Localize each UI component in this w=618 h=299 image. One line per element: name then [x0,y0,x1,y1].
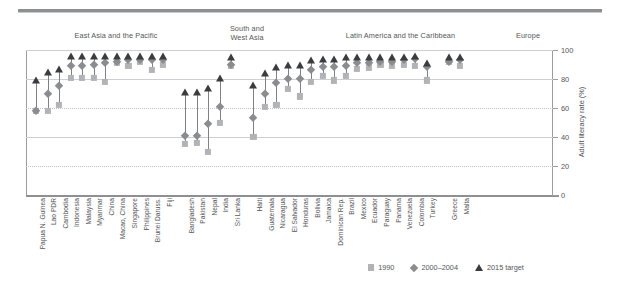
data-point-1990 [79,74,85,80]
data-point-2015-target [55,65,63,72]
category-label: Ecuador [371,198,378,223]
y-tick-label-100: 100 [561,46,573,55]
category-label: China [108,198,115,215]
data-point-2015-target [90,52,98,59]
data-point-1990 [424,77,430,83]
data-point-1990 [320,73,326,79]
data-point-2015-target [423,60,431,67]
data-point-2015-target [261,70,269,77]
category-label: India [222,198,229,213]
plot-bottom-border [26,195,559,197]
category-label: Malta [463,198,470,214]
category-label: Nicaragua [279,198,286,229]
y-tick-100 [553,50,558,51]
data-point-2015-target [148,52,156,59]
data-point-1990 [182,141,188,147]
group-label-east-asia: East Asia and the Pacific [36,32,196,41]
diamond-marker-icon [410,263,418,271]
category-label: Jamaica [325,198,332,223]
chart-legend: 1990 2000–2004 2015 target [368,263,524,272]
data-point-2015-target [376,54,384,61]
y-tick-40 [553,137,558,138]
category-label: Lao PDR [50,198,57,225]
category-label: Papua N. Guinea [39,198,46,249]
category-label: Philippines [143,198,150,230]
data-point-2015-target [365,54,373,61]
data-point-2015-target [330,55,338,62]
legend-item-1990: 1990 [368,263,394,272]
data-point-2015-target [227,54,235,61]
category-label: Panama [395,198,402,223]
category-label: Sri Lanka [234,198,241,226]
data-point-1990 [68,74,74,80]
data-point-1990 [102,79,108,85]
category-label: Venezuela [406,198,413,229]
data-point-2015-target [101,52,109,59]
literacy-rate-chart-figure: East Asia and the Pacific South and West… [0,0,618,299]
data-point-2015-target [353,54,361,61]
category-label: Haiti [256,198,263,211]
data-point-1990 [343,73,349,79]
data-point-2015-target [307,57,315,64]
legend-item-2000-2004: 2000–2004 [411,263,458,272]
data-point-2015-target [113,52,121,59]
category-label: Malaysia [85,198,92,224]
data-point-2015-target [456,54,464,61]
data-point-1990 [331,77,337,83]
data-point-2015-target [342,54,350,61]
data-point-1990 [91,74,97,80]
data-point-2015-target [411,52,419,59]
category-label: Mexico [360,198,367,219]
data-point-2015-target [124,52,132,59]
square-marker-icon [368,264,374,270]
y-tick-80 [553,79,558,80]
data-point-2015-target [44,68,52,75]
data-point-2015-target [284,61,292,68]
gridline-20 [26,166,553,167]
y-axis-line [552,50,553,196]
data-point-2015-target [67,52,75,59]
data-point-1990 [205,148,211,154]
data-point-2015-target [78,52,86,59]
y-tick-label-60: 60 [561,104,569,113]
group-label-latin-america: Latin America and the Caribbean [318,32,483,41]
data-point-2015-target [193,89,201,96]
y-tick-label-40: 40 [561,133,569,142]
category-label: Guatemala [268,198,275,231]
y-tick-60 [553,108,558,109]
header-rule [18,9,602,12]
data-point-1990 [273,102,279,108]
group-label-europe: Europe [498,32,558,41]
category-label: Dominican Rep. [337,198,344,246]
category-label: Nepal [211,198,218,215]
y-tick-20 [553,166,558,167]
data-point-2015-target [319,55,327,62]
category-label: Brunei Daruss. [154,198,161,242]
group-label-south-west-asia: South and West Asia [212,25,282,42]
data-point-2015-target [216,74,224,81]
category-label: Macao, China [119,198,126,239]
data-point-2015-target [159,52,167,59]
data-point-1990 [296,93,302,99]
data-point-2015-target [445,54,453,61]
category-label: Turkey [429,198,436,218]
gridline-60 [26,108,553,109]
category-label: El Salvador [291,198,298,232]
data-point-1990 [56,102,62,108]
data-point-1990 [217,119,223,125]
category-label: Indonesia [73,198,80,227]
y-tick-label-20: 20 [561,162,569,171]
data-point-1990 [148,67,154,73]
y-tick-label-0: 0 [561,191,565,200]
data-point-2015-target [181,89,189,96]
y-tick-0 [553,195,558,196]
data-point-2015-target [249,81,257,88]
category-label: Bolivia [314,198,321,218]
gridline-100 [26,50,553,51]
data-point-2015-target [400,54,408,61]
category-label: Greece [451,198,458,220]
connector-line [253,85,254,137]
data-point-1990 [285,86,291,92]
category-label: Myanmar [96,198,103,226]
data-point-1990 [250,134,256,140]
